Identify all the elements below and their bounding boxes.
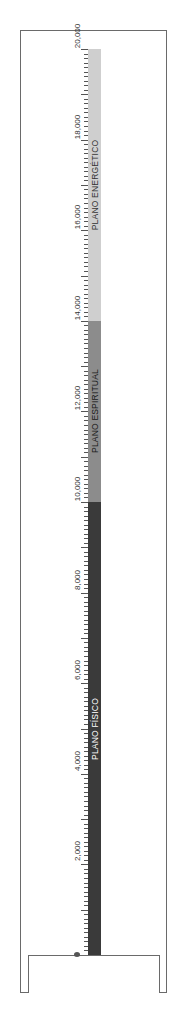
bar-segment-label: PLANO FÍSICO [90,698,100,760]
zero-marker [74,952,80,957]
bar-segment: PLANO ESPIRITUAL [88,321,101,502]
axis-tick-label: 2,000 [73,841,82,861]
axis-tick [81,774,88,775]
axis-tick [81,457,88,458]
axis-tick-label: 4,000 [73,751,82,771]
axis-tick [81,910,88,911]
bar-segment-label: PLANO ENERGÉTICO [90,140,100,231]
axis-tick-label: 12,000 [73,386,82,410]
axis-tick [81,276,88,277]
axis-tick [81,864,88,865]
axis-tick-label: 8,000 [73,570,82,590]
axis-tick [81,683,88,684]
axis-tick-label: 14,000 [73,296,82,320]
axis-tick [81,819,88,820]
axis-tick [81,49,88,50]
bar-segment: PLANO FÍSICO [88,502,101,955]
bar-segment: PLANO ENERGÉTICO [88,49,101,321]
axis-tick-label: 16,000 [73,205,82,229]
axis-tick [81,185,88,186]
axis-tick [81,502,88,503]
axis-tick [81,593,88,594]
axis-tick-label: 20,000 [73,24,82,48]
axis-tick [81,321,88,322]
axis-tick [81,411,88,412]
axis-tick [81,94,88,95]
axis-tick [81,638,88,639]
base-box [28,955,160,993]
axis-tick-label: 6,000 [73,660,82,680]
axis-tick [81,140,88,141]
axis-tick-label: 18,000 [73,114,82,138]
axis-tick [81,547,88,548]
axis-tick-label: 10,000 [73,477,82,501]
axis-tick [81,729,88,730]
bar-segment-label: PLANO ESPIRITUAL [90,369,100,453]
axis-tick [81,366,88,367]
axis-tick [81,230,88,231]
